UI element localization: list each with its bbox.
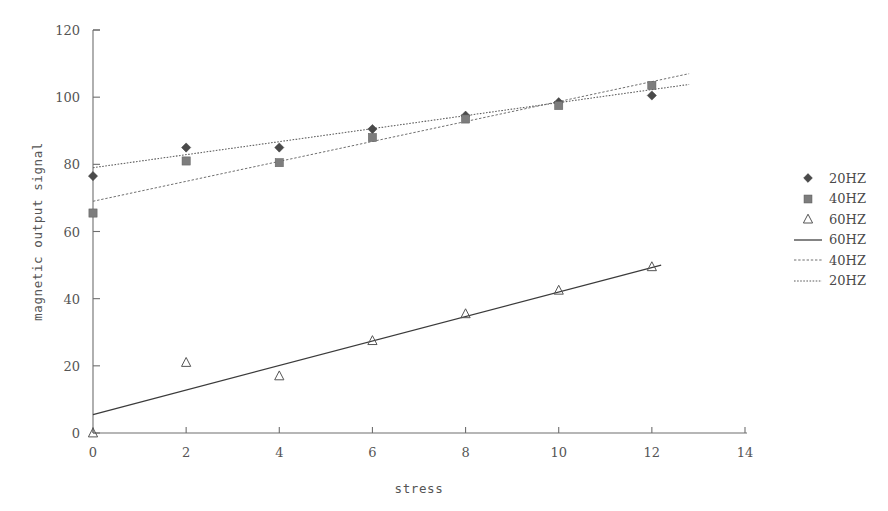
legend-item[interactable]: 40HZ bbox=[793, 250, 885, 271]
legend-key bbox=[793, 271, 823, 291]
data-point-60hz bbox=[182, 357, 191, 366]
y-tick-label: 80 bbox=[63, 157, 80, 172]
dashed-line-icon bbox=[793, 252, 823, 268]
y-tick-label: 40 bbox=[63, 292, 80, 307]
data-point-40hz bbox=[275, 159, 283, 167]
trendline-20hz bbox=[93, 84, 689, 167]
chart-legend: 20HZ40HZ60HZ60HZ40HZ20HZ bbox=[793, 168, 885, 291]
legend-item-label: 60HZ bbox=[823, 212, 866, 227]
x-tick-label: 6 bbox=[368, 445, 376, 460]
legend-item[interactable]: 20HZ bbox=[793, 168, 885, 189]
diamond-marker-icon bbox=[793, 170, 823, 186]
square-marker-icon bbox=[793, 191, 823, 207]
trendline-40hz bbox=[93, 74, 689, 202]
chart-canvas: 02468101214020406080100120stressmagnetic… bbox=[0, 0, 888, 511]
x-tick-label: 12 bbox=[644, 445, 661, 460]
y-tick-label: 60 bbox=[63, 225, 80, 240]
legend-item[interactable]: 60HZ bbox=[793, 230, 885, 251]
data-point-40hz bbox=[555, 101, 563, 109]
data-point-40hz bbox=[461, 115, 469, 123]
legend-key bbox=[793, 189, 823, 209]
solid-line-icon bbox=[793, 232, 823, 248]
data-point-20hz bbox=[182, 143, 191, 152]
legend-item[interactable]: 20HZ bbox=[793, 271, 885, 292]
y-tick-label: 20 bbox=[63, 359, 80, 374]
legend-item-label: 40HZ bbox=[823, 253, 866, 268]
legend-item-label: 60HZ bbox=[823, 232, 866, 247]
y-axis-title: magnetic output signal bbox=[30, 142, 45, 321]
legend-item-label: 20HZ bbox=[823, 273, 866, 288]
legend-key bbox=[793, 209, 823, 229]
dotted-line-icon bbox=[793, 273, 823, 289]
x-tick-label: 14 bbox=[737, 445, 754, 460]
x-tick-label: 0 bbox=[89, 445, 97, 460]
data-point-20hz bbox=[88, 171, 97, 180]
data-point-40hz bbox=[368, 133, 376, 141]
legend-item-label: 20HZ bbox=[823, 171, 866, 186]
legend-key bbox=[793, 230, 823, 250]
trendline-60hz bbox=[93, 265, 661, 414]
y-tick-label: 120 bbox=[55, 23, 80, 38]
x-tick-label: 8 bbox=[461, 445, 469, 460]
data-point-20hz bbox=[275, 143, 284, 152]
legend-item-label: 40HZ bbox=[823, 191, 866, 206]
y-tick-label: 100 bbox=[55, 90, 80, 105]
x-tick-label: 2 bbox=[182, 445, 190, 460]
legend-key bbox=[793, 168, 823, 188]
scatter-plot: 02468101214020406080100120stressmagnetic… bbox=[0, 0, 888, 511]
y-tick-label: 0 bbox=[72, 426, 80, 441]
x-axis-title: stress bbox=[395, 481, 444, 496]
legend-key bbox=[793, 250, 823, 270]
legend-item[interactable]: 40HZ bbox=[793, 189, 885, 210]
x-tick-label: 10 bbox=[550, 445, 567, 460]
x-tick-label: 4 bbox=[275, 445, 283, 460]
legend-item[interactable]: 60HZ bbox=[793, 209, 885, 230]
triangle-marker-icon bbox=[793, 211, 823, 227]
data-point-40hz bbox=[648, 81, 656, 89]
data-point-40hz bbox=[182, 157, 190, 165]
data-point-60hz bbox=[275, 371, 284, 380]
data-point-20hz bbox=[368, 124, 377, 133]
data-point-40hz bbox=[89, 209, 97, 217]
data-point-20hz bbox=[647, 91, 656, 100]
